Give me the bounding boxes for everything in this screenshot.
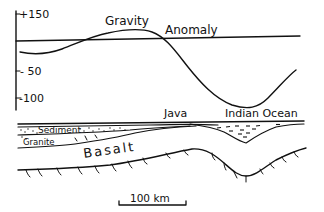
- scale-bar: 100 km: [119, 192, 186, 205]
- gravity-label: Gravity: [105, 14, 149, 28]
- y-tick-label-minus100: -100: [19, 92, 44, 105]
- y-tick-label-150: +150: [19, 8, 49, 21]
- geology-gravity-diagram: +150 - 50 -100 Gravity Anomaly Java Indi…: [0, 0, 324, 212]
- granite-ticks: [75, 135, 97, 141]
- moho-line: [18, 148, 306, 176]
- indian-ocean-label: Indian Ocean: [225, 107, 298, 120]
- trench-sediment-dashes: [217, 125, 280, 138]
- scale-bar-label: 100 km: [130, 192, 170, 204]
- java-label: Java: [163, 107, 187, 120]
- zero-reference-line: [16, 36, 300, 41]
- gravity-anomaly-curve: [20, 30, 296, 108]
- surface-line-top: [18, 121, 304, 124]
- y-tick-label-minus50: - 50: [20, 65, 41, 78]
- gravity-panel: +150 - 50 -100 Gravity Anomaly: [16, 8, 300, 110]
- sediment-label: Sediment: [38, 125, 81, 135]
- granite-label: Granite: [23, 137, 55, 147]
- anomaly-label: Anomaly: [165, 23, 218, 37]
- cross-section: Java Indian Ocean: [18, 107, 306, 182]
